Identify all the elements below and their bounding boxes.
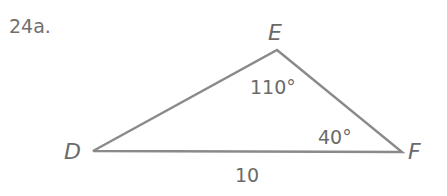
angle-label-f: 40°: [318, 126, 352, 148]
angle-label-e: 110°: [250, 76, 296, 98]
triangle-diagram: E D F 110° 40° 10: [0, 0, 447, 196]
triangle-def: [93, 50, 402, 152]
vertex-label-e: E: [268, 20, 282, 45]
vertex-label-f: F: [408, 139, 421, 164]
vertex-label-d: D: [64, 139, 81, 164]
side-label-df: 10: [235, 164, 259, 186]
